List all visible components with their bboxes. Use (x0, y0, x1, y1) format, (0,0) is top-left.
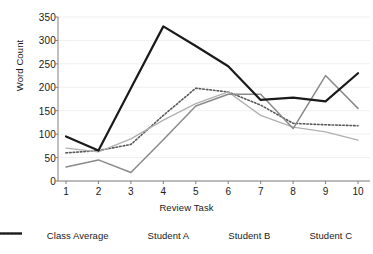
legend-item[interactable]: Student C (283, 230, 352, 241)
legend-label: Student A (148, 230, 190, 241)
x-tick-label: 8 (281, 186, 305, 197)
x-tick-label: 5 (184, 186, 208, 197)
chart-legend: Class AverageStudent AStudent BStudent C (0, 230, 373, 241)
x-tick-label: 4 (151, 186, 175, 197)
x-axis-tick-labels: 12345678910 (0, 186, 373, 200)
x-axis-title: Review Task (0, 202, 373, 213)
x-tick-label: 10 (346, 186, 370, 197)
x-tick-label: 9 (314, 186, 338, 197)
legend-item[interactable]: Class Average (21, 230, 109, 241)
x-tick-label: 6 (216, 186, 240, 197)
legend-swatch-icon (21, 232, 43, 239)
legend-label: Student B (228, 230, 270, 241)
legend-swatch-icon (122, 232, 144, 239)
x-tick-label: 2 (86, 186, 110, 197)
legend-swatch-icon (202, 232, 224, 239)
series-line (66, 26, 358, 150)
legend-label: Student C (309, 230, 352, 241)
legend-item[interactable]: Student A (122, 230, 190, 241)
plot-area (0, 0, 373, 254)
legend-swatch-icon (283, 232, 305, 239)
x-tick-label: 3 (119, 186, 143, 197)
line-chart: Word Count 050100150200250300350 1234567… (0, 0, 373, 254)
legend-label: Class Average (47, 230, 109, 241)
x-tick-label: 7 (249, 186, 273, 197)
x-tick-label: 1 (54, 186, 78, 197)
legend-item[interactable]: Student B (202, 230, 270, 241)
